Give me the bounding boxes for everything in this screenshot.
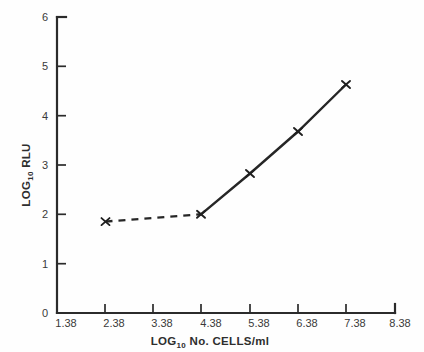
y-tick-label-0: 0 xyxy=(42,307,48,319)
y-tick-label-6: 6 xyxy=(42,11,48,23)
y-axis-title-rest: RLU xyxy=(20,143,32,171)
series-segment-plateau xyxy=(106,214,202,221)
x-tick-label-5-38: 5.38 xyxy=(248,317,269,329)
y-tick-label-4: 4 xyxy=(42,110,48,122)
chart-canvas: 0 1 2 3 4 5 6 1.38 2.38 3.38 4.38 5.38 6… xyxy=(0,0,424,352)
y-tick-label-1: 1 xyxy=(42,258,48,270)
y-axis-title-subscript: 10 xyxy=(26,171,35,181)
x-tick-label-7-38: 7.38 xyxy=(344,317,365,329)
y-tick-label-3: 3 xyxy=(42,159,48,171)
x-tick-label-6-38: 6.38 xyxy=(296,317,317,329)
y-tick-marks xyxy=(57,17,66,313)
y-axis-title: LOG10 RLU xyxy=(20,143,35,206)
svg-text:LOG10 No. CELLS/ml: LOG10 No. CELLS/ml xyxy=(151,335,269,350)
y-tick-label-2: 2 xyxy=(42,208,48,220)
x-tick-labels: 1.38 2.38 3.38 4.38 5.38 6.38 7.38 8.38 xyxy=(55,317,410,329)
y-tick-label-5: 5 xyxy=(42,60,48,72)
x-axis-title: LOG10 No. CELLS/ml xyxy=(151,335,269,350)
marker-point-5-38 xyxy=(246,170,254,177)
data-markers xyxy=(102,81,351,225)
y-tick-labels: 0 1 2 3 4 5 6 xyxy=(42,11,48,319)
axes xyxy=(57,17,395,313)
x-tick-marks xyxy=(105,304,395,313)
x-axis-title-subscript: 10 xyxy=(177,341,187,350)
svg-text:LOG10 RLU: LOG10 RLU xyxy=(20,143,35,206)
chart-figure: 0 1 2 3 4 5 6 1.38 2.38 3.38 4.38 5.38 6… xyxy=(0,0,424,352)
x-tick-label-1-38: 1.38 xyxy=(55,317,76,329)
x-tick-label-4-38: 4.38 xyxy=(200,317,221,329)
y-axis-title-main: LOG xyxy=(20,181,32,207)
x-axis-title-rest: No. CELLS/ml xyxy=(186,335,269,347)
data-series xyxy=(106,85,347,222)
x-tick-label-8-38: 8.38 xyxy=(389,317,410,329)
series-segment-linear-response xyxy=(201,85,346,215)
x-tick-label-3-38: 3.38 xyxy=(151,317,172,329)
x-axis-title-main: LOG xyxy=(151,335,177,347)
marker-point-6-38 xyxy=(294,128,302,135)
marker-point-7-38 xyxy=(342,81,350,88)
x-tick-label-2-38: 2.38 xyxy=(103,317,124,329)
